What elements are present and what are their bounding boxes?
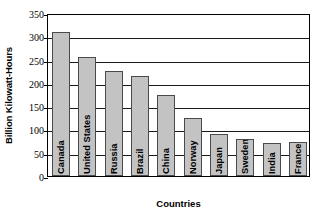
y-axis-tick-label: 0	[16, 172, 44, 183]
bar-category-label: Russia	[109, 144, 119, 175]
bar[interactable]: France	[289, 142, 307, 176]
bar-category-label: China	[161, 148, 171, 174]
y-axis-tick-label: 50	[16, 148, 44, 159]
plot-area: CanadaUnited StatesRussiaBrazilChinaNorw…	[47, 14, 310, 177]
bar-category-label: France	[293, 144, 303, 175]
y-axis-tick-label: 100	[16, 125, 44, 136]
bar[interactable]: Sweden	[236, 139, 254, 176]
bar[interactable]: Norway	[184, 118, 202, 176]
y-axis-tick-label: 250	[16, 55, 44, 66]
y-axis-tick-mark	[44, 178, 48, 179]
x-axis-title: Countries	[47, 198, 310, 209]
bar[interactable]: United States	[78, 57, 96, 176]
y-axis-tick-label: 200	[16, 78, 44, 89]
bar-chart-figure: Billion Kilowatt-Hours 05010015020025030…	[0, 0, 326, 221]
bar-category-label: Sweden	[240, 139, 250, 174]
y-axis-title-label: Billion Kilowatt-Hours	[4, 46, 15, 143]
y-axis-tick-label: 300	[16, 32, 44, 43]
bar[interactable]: Brazil	[131, 76, 149, 176]
bar-category-label: Brazil	[135, 149, 145, 174]
bars-layer: CanadaUnited StatesRussiaBrazilChinaNorw…	[48, 15, 309, 176]
bar[interactable]: India	[263, 143, 281, 176]
bar-category-label: United States	[82, 115, 92, 174]
bar-category-label: Japan	[214, 147, 224, 174]
bar[interactable]: Russia	[105, 71, 123, 176]
bar-category-label: India	[267, 152, 277, 174]
bar-category-label: Norway	[188, 140, 198, 174]
bar-category-label: Canada	[56, 140, 66, 174]
bar[interactable]: Canada	[52, 32, 70, 176]
y-axis-tick-label: 150	[16, 102, 44, 113]
y-axis-tick-labels: 050100150200250300350	[16, 14, 44, 177]
bar[interactable]: China	[157, 95, 175, 177]
bar[interactable]: Japan	[210, 134, 228, 176]
y-axis-tick-label: 350	[16, 9, 44, 20]
